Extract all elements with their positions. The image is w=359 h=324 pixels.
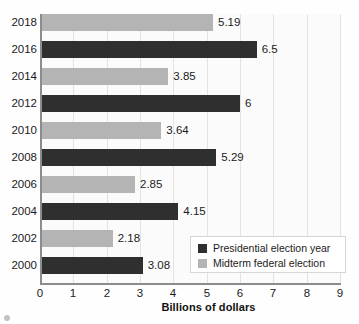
bar-2018: [40, 14, 213, 31]
bar-value-2014: 3.85: [173, 68, 195, 85]
y-tick-2000: 2000: [1, 257, 37, 274]
legend-label-presidential: Presidential election year: [213, 242, 330, 254]
y-tick-2004: 2004: [1, 203, 37, 220]
y-tick-2010: 2010: [1, 122, 37, 139]
y-tick-2002: 2002: [1, 230, 37, 247]
cut-off-caption-fragment: [4, 312, 204, 322]
legend-swatch-presidential-icon: [198, 244, 207, 253]
y-tick-2018: 2018: [1, 14, 37, 31]
caption-bullet-icon: [4, 315, 10, 321]
bar-value-2016: 6.5: [262, 41, 278, 58]
x-tick-9: 9: [337, 287, 343, 299]
bar-value-2002: 2.18: [118, 230, 140, 247]
x-tick-0: 0: [37, 287, 43, 299]
y-tick-2014: 2014: [1, 68, 37, 85]
x-tick-7: 7: [270, 287, 276, 299]
bar-value-2010: 3.64: [166, 122, 188, 139]
bar-2008: [40, 149, 216, 166]
bar-value-2000: 3.08: [148, 257, 170, 274]
y-tick-2012: 2012: [1, 95, 37, 112]
x-tick-6: 6: [237, 287, 243, 299]
x-tick-1: 1: [70, 287, 76, 299]
bar-value-2004: 4.15: [183, 203, 205, 220]
bar-2004: [40, 203, 178, 220]
x-tick-2: 2: [104, 287, 110, 299]
bar-2016: [40, 41, 257, 58]
legend-item-midterm: Midterm federal election: [198, 256, 345, 270]
bar-2000: [40, 257, 143, 274]
bar-value-2012: 6: [245, 95, 251, 112]
legend-swatch-midterm-icon: [198, 259, 207, 268]
x-axis-line: [40, 283, 341, 285]
bar-2010: [40, 122, 161, 139]
bar-2006: [40, 176, 135, 193]
legend-label-midterm: Midterm federal election: [213, 257, 325, 269]
x-tick-4: 4: [170, 287, 176, 299]
y-tick-2016: 2016: [1, 41, 37, 58]
bar-chart-figure: VOTE 2018 2016 2014 2012 2010 2008 2006 …: [0, 0, 359, 324]
bar-value-2008: 5.29: [221, 149, 243, 166]
y-axis-tick-labels: 2018 2016 2014 2012 2010 2008 2006 2004 …: [0, 14, 37, 283]
x-tick-8: 8: [304, 287, 310, 299]
bar-2002: [40, 230, 113, 247]
bar-2014: [40, 68, 168, 85]
legend-item-presidential: Presidential election year: [198, 241, 345, 255]
bar-value-2006: 2.85: [140, 176, 162, 193]
bar-2012: [40, 95, 240, 112]
x-tick-3: 3: [137, 287, 143, 299]
y-axis-line: [40, 14, 42, 283]
chart-legend: Presidential election year Midterm feder…: [190, 236, 346, 273]
y-tick-2006: 2006: [1, 176, 37, 193]
y-tick-2008: 2008: [1, 149, 37, 166]
x-tick-5: 5: [204, 287, 210, 299]
bar-value-2018: 5.19: [218, 14, 240, 31]
